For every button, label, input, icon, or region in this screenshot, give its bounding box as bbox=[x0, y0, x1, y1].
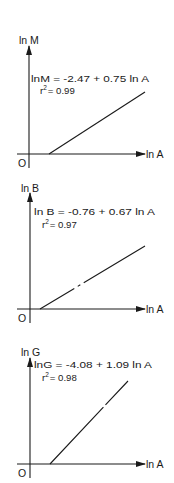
origin-label: O bbox=[18, 467, 26, 479]
r2-label: r2= 0.98 bbox=[42, 371, 77, 383]
x-axis-label: ln A bbox=[146, 458, 164, 470]
fit-line bbox=[50, 381, 128, 464]
r2-label: r2= 0.99 bbox=[40, 84, 75, 96]
x-axis-label: ln A bbox=[146, 148, 164, 160]
r2-value: = 0.99 bbox=[48, 85, 75, 96]
panel-ln-g: ln G ln A O lnG = -4.08 + 1.09 ln A r2= … bbox=[17, 346, 164, 479]
panel-ln-m: ln M ln A O lnM = -2.47 + 0.75 ln A r2= … bbox=[17, 34, 164, 169]
fit-line bbox=[40, 246, 145, 309]
equation-label: lnM = -2.47 + 0.75 ln A bbox=[31, 73, 150, 84]
x-axis-label: ln A bbox=[146, 303, 164, 315]
y-axis-label: ln G bbox=[21, 346, 40, 358]
r2-exponent: 2 bbox=[43, 84, 47, 91]
r2-value: = 0.97 bbox=[50, 219, 77, 230]
r2-value: = 0.98 bbox=[50, 372, 77, 383]
y-axis-label: ln M bbox=[19, 34, 39, 46]
origin-label: O bbox=[18, 157, 26, 169]
equation-label: lnG = -4.08 + 1.09 ln A bbox=[34, 359, 153, 370]
y-axis-label: ln B bbox=[21, 182, 39, 194]
r2-exponent: 2 bbox=[45, 371, 49, 378]
origin-label: O bbox=[18, 312, 26, 324]
r2-label: r2= 0.97 bbox=[42, 218, 77, 230]
figure: ln M ln A O lnM = -2.47 + 0.75 ln A r2= … bbox=[0, 0, 174, 483]
r2-exponent: 2 bbox=[45, 218, 49, 225]
fit-line bbox=[49, 92, 145, 154]
equation-label: ln B = -0.76 + 0.67 ln A bbox=[34, 206, 156, 217]
panel-ln-b: ln B ln A O ln B = -0.76 + 0.67 ln A r2=… bbox=[17, 182, 164, 324]
